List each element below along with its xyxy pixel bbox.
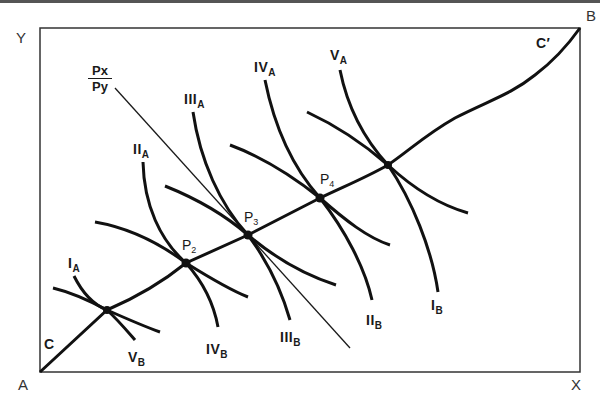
label-iv-b: IVB [206, 342, 228, 360]
label-ii-a: IIA [133, 142, 150, 160]
point-label-p2: P2 [182, 238, 196, 255]
label-v-a: VA [330, 48, 348, 66]
origin-label-b: B [586, 8, 596, 23]
label-iv-a: IVA [254, 60, 276, 78]
indifference-curve-ii-a [143, 162, 218, 327]
label-ii-b: IIB [366, 313, 383, 331]
label-iii-a: IIIA [184, 92, 205, 110]
tangency-point-1 [103, 306, 111, 314]
point-label-p4: P4 [320, 172, 334, 189]
indifference-curve-ii-b [230, 145, 390, 245]
tangency-point-p2 [182, 259, 191, 268]
price-numerator: Px [88, 64, 112, 79]
tangency-point-p3 [244, 231, 253, 240]
label-iii-b: IIIB [280, 330, 301, 348]
price-denominator: Py [88, 79, 112, 93]
indifference-curve-iii-a [193, 112, 290, 320]
contract-curve-start-label: C [44, 337, 55, 351]
indifference-curve-iv-a [265, 80, 372, 300]
box-frame [40, 28, 580, 372]
label-i-b: IB [431, 298, 443, 316]
contract-curve-end-label: C′ [536, 36, 550, 50]
axis-label-y: Y [16, 30, 26, 45]
price-ratio-label: Px Py [88, 64, 112, 93]
tangency-point-p4 [316, 194, 325, 203]
axis-label-x: X [571, 377, 581, 392]
indifference-curve-iv-b [95, 222, 248, 297]
label-i-a: IA [68, 256, 80, 274]
contract-curve [40, 28, 580, 372]
point-label-p3: P3 [244, 210, 258, 227]
origin-label-a: A [18, 377, 28, 392]
tangency-point-5 [384, 161, 392, 169]
label-v-b: VB [128, 350, 146, 368]
